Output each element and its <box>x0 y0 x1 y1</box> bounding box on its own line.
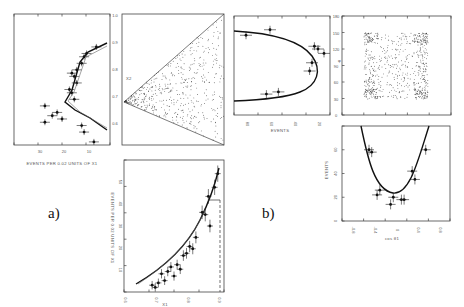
event-dot <box>187 86 188 87</box>
event-dot <box>389 57 390 58</box>
fit-curve-secondary <box>68 46 107 128</box>
event-dot <box>215 73 216 74</box>
event-dot <box>371 33 372 34</box>
event-dot <box>424 45 425 46</box>
event-dot <box>367 40 368 41</box>
event-dot <box>126 101 127 102</box>
event-dot <box>414 88 415 89</box>
event-dot <box>142 99 143 100</box>
event-dot <box>409 54 410 55</box>
event-dot <box>154 106 155 107</box>
event-dot <box>149 84 150 85</box>
event-dot <box>379 56 380 57</box>
event-dot <box>211 108 212 109</box>
event-dot <box>381 60 382 61</box>
event-dot <box>125 100 126 101</box>
event-dot <box>185 104 186 105</box>
event-dot <box>165 76 166 77</box>
panel-label-a: a) <box>48 205 60 222</box>
event-dot <box>182 79 183 80</box>
event-dot <box>371 94 372 95</box>
event-dot <box>172 117 173 118</box>
event-dot <box>396 50 397 51</box>
event-dot <box>423 78 424 79</box>
event-dot <box>407 41 408 42</box>
panel-label-b: b) <box>262 205 275 222</box>
event-dot <box>204 117 205 118</box>
event-dot <box>191 100 192 101</box>
event-dot <box>424 37 425 38</box>
event-dot <box>393 87 394 88</box>
event-dot <box>422 73 423 74</box>
event-dot <box>422 94 423 95</box>
event-dot <box>204 82 205 83</box>
event-dot <box>387 58 388 59</box>
event-dot <box>179 55 180 56</box>
event-dot <box>149 104 150 105</box>
event-dot <box>128 98 129 99</box>
event-dot <box>167 105 168 106</box>
event-dot <box>422 56 423 57</box>
event-dot <box>386 52 387 53</box>
event-dot <box>372 74 373 75</box>
event-dot <box>416 94 417 95</box>
event-dot <box>221 20 222 21</box>
event-dot <box>170 63 171 64</box>
event-dot <box>426 41 427 42</box>
event-dot <box>425 63 426 64</box>
event-dot <box>419 97 420 98</box>
event-dot <box>221 138 222 139</box>
event-dot <box>372 38 373 39</box>
tick-label: 150 <box>333 31 340 36</box>
event-dot <box>396 44 397 45</box>
event-dot <box>222 97 223 98</box>
event-dot <box>396 97 397 98</box>
event-dot <box>421 76 422 77</box>
event-dot <box>374 89 375 90</box>
event-dot <box>191 89 192 90</box>
event-dot <box>413 73 414 74</box>
event-dot <box>190 48 191 49</box>
event-dot <box>423 71 424 72</box>
event-dot <box>186 79 187 80</box>
event-dot <box>152 96 153 97</box>
event-dot <box>135 93 136 94</box>
event-dot <box>185 80 186 81</box>
event-dot <box>181 66 182 67</box>
event-dot <box>400 97 401 98</box>
event-dot <box>415 94 416 95</box>
event-dot <box>144 99 145 100</box>
event-dot <box>165 77 166 78</box>
event-dot <box>130 98 131 99</box>
event-dot <box>154 82 155 83</box>
event-dot <box>147 105 148 106</box>
event-dot <box>374 56 375 57</box>
triangle-edge <box>124 102 224 145</box>
event-dot <box>415 89 416 90</box>
event-dot <box>369 77 370 78</box>
event-dot <box>375 33 376 34</box>
event-dot <box>401 85 402 86</box>
event-dot <box>389 92 390 93</box>
event-dot <box>365 92 366 93</box>
event-dot <box>199 121 200 122</box>
event-dot <box>365 65 366 66</box>
event-dot <box>426 43 427 44</box>
event-dot <box>407 94 408 95</box>
event-dot <box>144 93 145 94</box>
event-dot <box>367 41 368 42</box>
event-dot <box>427 34 428 35</box>
event-dot <box>419 93 420 94</box>
event-dot <box>383 96 384 97</box>
event-dot <box>156 102 157 103</box>
event-dot <box>369 38 370 39</box>
event-dot <box>163 100 164 101</box>
event-dot <box>155 85 156 86</box>
event-dot <box>194 106 195 107</box>
event-dot <box>199 63 200 64</box>
event-dot <box>192 110 193 111</box>
event-dot <box>395 57 396 58</box>
axis-frame <box>342 126 450 221</box>
event-dot <box>173 122 174 123</box>
data-point <box>184 248 190 259</box>
